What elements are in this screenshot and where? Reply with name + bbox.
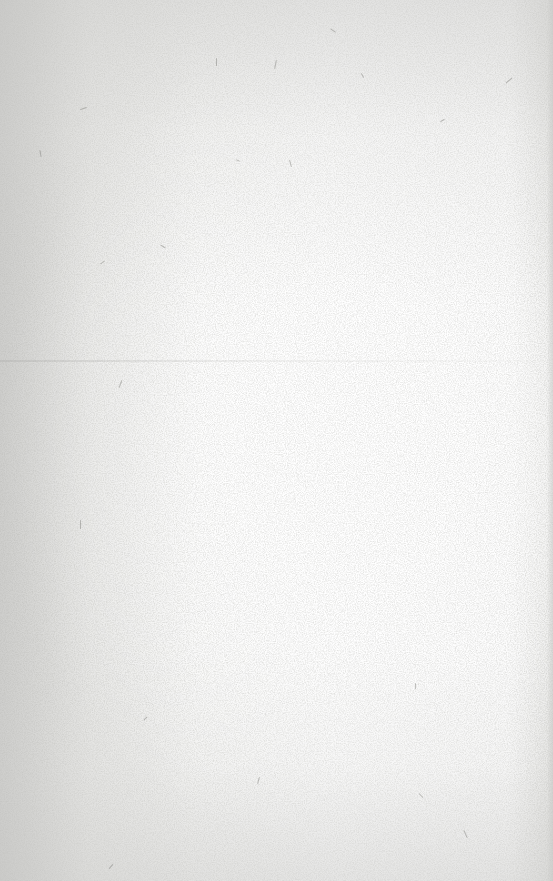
right-edge-shading	[547, 0, 553, 881]
fiber	[216, 58, 217, 66]
left-shading	[0, 0, 200, 881]
paper-crease	[0, 360, 553, 362]
fiber	[80, 520, 81, 529]
fiber	[415, 683, 416, 689]
paper-sheet	[0, 0, 553, 881]
